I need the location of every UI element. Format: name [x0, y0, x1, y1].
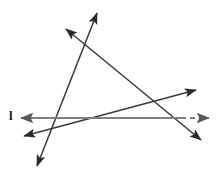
geometry-canvas	[0, 0, 223, 175]
descending-line	[66, 29, 201, 140]
steep-line	[37, 13, 97, 166]
geometry-figure: l	[0, 0, 223, 175]
shallow-rising-line	[24, 90, 196, 136]
line-l-label: l	[9, 109, 13, 122]
